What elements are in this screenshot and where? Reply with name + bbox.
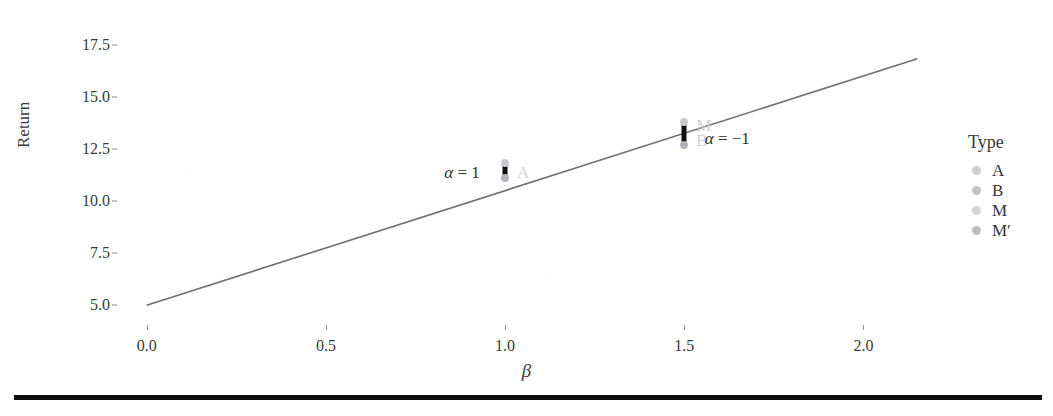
- marker-dot-bottom: [680, 141, 688, 149]
- marker-dot-top: [680, 118, 688, 126]
- y-tick-label: 7.5: [90, 244, 110, 262]
- legend-swatch: [972, 166, 981, 175]
- y-tick-mark: [112, 148, 117, 149]
- y-tick-label: 12.5: [82, 140, 110, 158]
- legend-item-m[interactable]: M: [972, 200, 1048, 220]
- y-tick-label: 15.0: [82, 88, 110, 106]
- legend-swatch: [972, 206, 981, 215]
- y-axis-label: Return: [14, 102, 34, 148]
- marker-dot-top: [501, 159, 509, 167]
- page-bottom-rule: [14, 395, 1042, 400]
- x-tick-label: 0.5: [316, 337, 336, 355]
- x-tick-label: 0.0: [137, 337, 157, 355]
- y-tick-mark: [112, 253, 117, 254]
- figure-page: Return 5.07.510.012.515.017.5 AMB α = 1α…: [0, 0, 1053, 416]
- x-tick-mark: [863, 325, 864, 330]
- x-tick-label: 2.0: [853, 337, 873, 355]
- x-tick-mark: [505, 325, 506, 330]
- y-tick-label: 5.0: [90, 296, 110, 314]
- legend-label: B: [992, 182, 1003, 199]
- x-tick-mark: [147, 325, 148, 330]
- x-tick-label: 1.0: [495, 337, 515, 355]
- alpha-annotation: α = −1: [705, 129, 750, 149]
- x-tick-label: 1.5: [674, 337, 694, 355]
- y-tick-label: 10.0: [82, 192, 110, 210]
- marker-cluster[interactable]: [677, 120, 691, 147]
- y-tick-label: 17.5: [82, 36, 110, 54]
- alpha-annotation: α = 1: [444, 163, 480, 183]
- legend-item-b[interactable]: B: [972, 180, 1048, 200]
- legend-item-a[interactable]: A: [972, 160, 1048, 180]
- y-axis-ticks: 5.07.510.012.515.017.5: [38, 32, 110, 322]
- legend-label: M: [992, 202, 1007, 219]
- legend-label: A: [992, 162, 1004, 179]
- cropped-caption-artifact: [0, 0, 1053, 7]
- y-tick-mark: [112, 305, 117, 306]
- plot-area: AMB α = 1α = −1: [118, 32, 928, 322]
- x-axis-label: β: [0, 360, 1053, 382]
- legend-title: Type: [968, 132, 1048, 153]
- marker-dot-bottom: [501, 174, 509, 182]
- point-label: A: [517, 163, 529, 183]
- y-tick-mark: [112, 44, 117, 45]
- legend: Type ABMM′: [958, 132, 1048, 240]
- legend-label: M′: [992, 222, 1011, 239]
- y-tick-mark: [112, 200, 117, 201]
- x-tick-mark: [684, 325, 685, 330]
- x-axis-ticks: 0.00.51.01.52.0: [118, 325, 928, 355]
- marker-cluster[interactable]: [498, 161, 512, 180]
- legend-swatch: [972, 226, 981, 235]
- y-tick-mark: [112, 96, 117, 97]
- legend-swatch: [972, 186, 981, 195]
- legend-item-mprime[interactable]: M′: [972, 220, 1048, 240]
- x-tick-mark: [326, 325, 327, 330]
